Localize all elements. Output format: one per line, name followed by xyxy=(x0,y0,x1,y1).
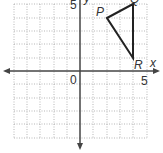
vertex-label-r: R xyxy=(134,58,143,72)
y-axis-label: y xyxy=(83,0,91,5)
x-axis-label: x xyxy=(149,56,157,70)
coordinate-plane: 0 5 5 x y P Q R xyxy=(0,0,163,153)
vertex-label-p: P xyxy=(96,5,104,19)
axes xyxy=(3,0,160,150)
origin-label: 0 xyxy=(70,73,77,87)
vertex-label-q: Q xyxy=(130,0,139,6)
y-tick-5: 5 xyxy=(70,0,77,12)
x-tick-5: 5 xyxy=(141,74,148,88)
